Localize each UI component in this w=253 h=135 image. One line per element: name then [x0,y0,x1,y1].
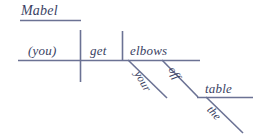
word-direct-object: elbows [130,44,167,57]
word-prep-object: table [205,82,232,95]
word-mabel: Mabel [21,4,58,18]
preposition-line-off [162,60,198,97]
word-verb: get [90,44,106,57]
word-subject: (you) [28,44,56,57]
sentence-diagram: Mabel (you) get elbows your off table th… [0,0,253,135]
